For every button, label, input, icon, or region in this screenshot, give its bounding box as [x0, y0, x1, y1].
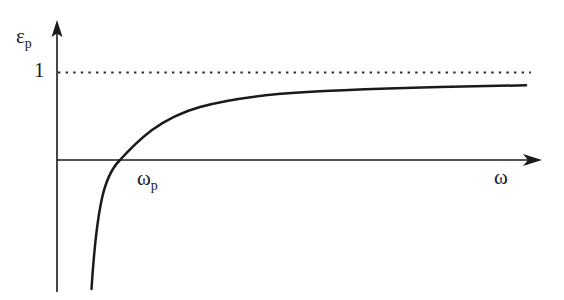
- y-axis-symbol: ε: [16, 24, 25, 48]
- y-axis-title: εp: [16, 26, 32, 47]
- omega-p-subscript: p: [151, 178, 158, 193]
- plot-svg: [0, 0, 564, 300]
- x-tick-label-omega-p: ωp: [137, 168, 158, 189]
- figure-canvas: εp 1 ωp ω: [0, 0, 564, 300]
- y-axis-subscript: p: [25, 36, 32, 51]
- y-tick-label-one: 1: [34, 60, 45, 81]
- x-axis-symbol: ω: [494, 165, 508, 189]
- omega-p-symbol: ω: [137, 166, 151, 190]
- x-axis-title: ω: [494, 167, 508, 188]
